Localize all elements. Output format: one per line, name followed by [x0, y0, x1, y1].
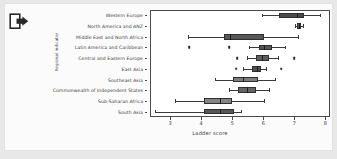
- cap-low: [295, 24, 296, 28]
- x-tick-label: 7: [293, 120, 296, 126]
- y-tick-label: Middle East and North Africa: [76, 34, 143, 39]
- median-line: [257, 66, 258, 72]
- cap-high: [241, 110, 242, 114]
- box-iqr: [204, 109, 234, 115]
- y-tick-mark: [145, 90, 148, 91]
- cap-high: [269, 88, 270, 92]
- cap-low: [262, 14, 263, 18]
- outlier-point: [189, 46, 191, 49]
- box-iqr: [233, 77, 258, 83]
- x-tick-label: 5: [231, 120, 234, 126]
- median-line: [247, 87, 248, 93]
- export-icon[interactable]: [9, 13, 29, 30]
- median-line: [299, 23, 300, 29]
- x-tick-label: 6: [262, 120, 265, 126]
- whisker-high: [269, 58, 278, 59]
- outlier-point: [280, 68, 282, 71]
- whisker-low: [155, 112, 204, 113]
- y-tick-label: East Asia: [122, 66, 143, 71]
- whisker-low: [188, 37, 224, 38]
- y-tick-label: Southeast Asia: [108, 77, 143, 82]
- median-line: [262, 55, 263, 61]
- y-tick-label: Latin America and Caribbean: [75, 45, 143, 50]
- whisker-high: [272, 47, 285, 48]
- cap-high: [266, 67, 267, 71]
- x-tick-label: 8: [324, 120, 327, 126]
- whisker-high: [234, 112, 241, 113]
- export-icon-svg: [9, 13, 29, 30]
- cap-high: [298, 35, 299, 39]
- whisker-low: [247, 58, 256, 59]
- y-tick-mark: [145, 69, 148, 70]
- y-tick-mark: [145, 80, 148, 81]
- screenshot-root: Regional indicator Ladder score Western …: [0, 0, 337, 159]
- outlier-point: [294, 57, 296, 60]
- y-tick-mark: [145, 47, 148, 48]
- cap-low: [175, 99, 176, 103]
- cap-high: [285, 46, 286, 50]
- y-tick-label: North America and ANZ: [87, 24, 143, 29]
- whisker-low: [175, 101, 204, 102]
- whisker-low: [215, 80, 233, 81]
- cap-high: [320, 14, 321, 18]
- outlier-point: [229, 46, 231, 49]
- median-line: [220, 109, 221, 115]
- box-iqr: [259, 45, 273, 51]
- y-tick-mark: [145, 26, 148, 27]
- cap-low: [243, 67, 244, 71]
- whisker-low: [229, 90, 238, 91]
- x-tick-label: 3: [169, 120, 172, 126]
- whisker-low: [243, 69, 253, 70]
- cap-high: [264, 99, 265, 103]
- cap-low: [188, 35, 189, 39]
- whisker-low: [249, 47, 259, 48]
- boxplot-figure: Regional indicator Ladder score Western …: [34, 8, 334, 144]
- cap-low: [229, 88, 230, 92]
- y-tick-label: Western Europe: [106, 13, 143, 18]
- cap-low: [215, 78, 216, 82]
- cap-low: [247, 56, 248, 60]
- whisker-high: [304, 15, 321, 16]
- y-axis-labels: Western EuropeNorth America and ANZMiddl…: [34, 10, 147, 117]
- cap-high: [275, 78, 276, 82]
- y-tick-label: Central and Eastern Europe: [78, 56, 143, 61]
- y-tick-label: Sub-Saharan Africa: [98, 98, 143, 103]
- whisker-high: [256, 90, 269, 91]
- x-tick-label: 4: [200, 120, 203, 126]
- median-line: [243, 77, 244, 83]
- y-tick-label: Commonwealth of Independent States: [53, 88, 143, 93]
- x-axis-title: Ladder score: [150, 130, 270, 136]
- box-iqr: [279, 13, 304, 19]
- whisker-high: [264, 37, 298, 38]
- cap-high: [278, 56, 279, 60]
- cap-high: [303, 24, 304, 28]
- outlier-point: [235, 68, 237, 71]
- y-tick-label: South Asia: [118, 109, 143, 114]
- median-line: [220, 98, 221, 104]
- cap-low: [155, 110, 156, 114]
- whisker-low: [262, 15, 279, 16]
- cap-low: [249, 46, 250, 50]
- box-iqr: [204, 98, 232, 104]
- y-tick-mark: [145, 58, 148, 59]
- outlier-point: [236, 57, 238, 60]
- y-tick-mark: [145, 101, 148, 102]
- median-line: [264, 45, 265, 51]
- whisker-high: [258, 80, 275, 81]
- y-tick-mark: [145, 37, 148, 38]
- median-line: [297, 13, 298, 19]
- y-tick-mark: [145, 112, 148, 113]
- whisker-high: [232, 101, 264, 102]
- median-line: [230, 34, 231, 40]
- y-tick-mark: [145, 15, 148, 16]
